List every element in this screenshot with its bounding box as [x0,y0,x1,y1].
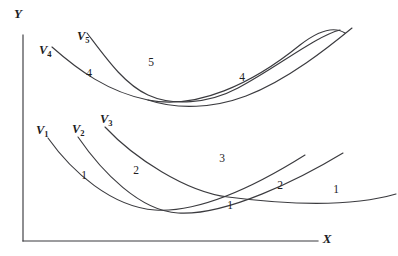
region-label-upper-4-right: 4 [239,71,245,83]
curve-label-v3-sub: 3 [108,118,112,128]
curve-label-v3: V3 [100,112,113,128]
region-label-lower-1-left: 1 [81,169,87,181]
lower-curve-family [48,127,396,213]
curve-label-v1-sub: 1 [44,129,48,139]
curve-label-v2: V2 [72,122,85,138]
curve-label-group: V1 V2 V3 V4 V5 [36,29,113,139]
region-label-upper-5: 5 [148,56,154,68]
curve-label-v2-sub: 2 [80,128,84,138]
curve-label-v4: V4 [39,43,52,59]
region-label-lower-2-right: 2 [277,179,283,191]
curve-v4-right-branch [148,28,352,106]
curve-v3 [105,127,396,203]
upper-curve-family [52,28,352,106]
region-label-group: 4 5 4 1 2 3 1 2 1 [81,56,339,211]
figure-container: Y X V1 V2 V3 V4 [0,0,398,256]
region-label-lower-1-center: 1 [227,199,233,211]
region-label-lower-2-left: 2 [133,164,139,176]
curve-label-v5: V5 [77,29,90,45]
region-label-upper-4-left: 4 [86,67,92,79]
curve-label-v5-sub: 5 [85,35,89,45]
region-label-lower-1-right: 1 [333,183,339,195]
curve-label-v1: V1 [36,123,49,139]
curve-label-v4-sub: 4 [47,49,52,59]
y-axis-label: Y [14,6,23,21]
region-label-lower-3: 3 [219,152,225,164]
x-axis-label: X [322,231,332,246]
curve-diagram: Y X V1 V2 V3 V4 [0,0,398,256]
